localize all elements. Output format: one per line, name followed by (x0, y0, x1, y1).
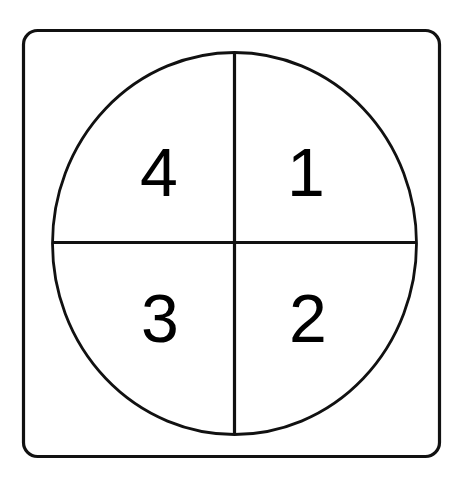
quadrant-label-1: 1 (287, 134, 325, 210)
quadrant-diagram: 1 2 3 4 (0, 0, 467, 477)
quadrant-label-3: 3 (141, 280, 179, 356)
quadrant-label-4: 4 (140, 134, 178, 210)
quadrant-label-2: 2 (289, 280, 327, 356)
diagram-canvas: 1 2 3 4 (0, 0, 467, 477)
